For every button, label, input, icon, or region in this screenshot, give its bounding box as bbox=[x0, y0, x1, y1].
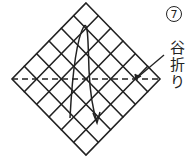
fold-label-char: 谷 bbox=[170, 40, 186, 57]
origami-diagram bbox=[0, 0, 192, 161]
fold-label: 谷 折 り bbox=[170, 40, 186, 91]
fold-label-char: り bbox=[170, 74, 186, 91]
leader-line bbox=[138, 55, 164, 77]
step-number: 7 bbox=[166, 6, 182, 22]
fold-label-char: 折 bbox=[170, 57, 186, 74]
